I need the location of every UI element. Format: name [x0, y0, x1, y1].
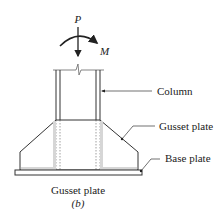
gusset-plate — [20, 120, 138, 170]
column-callout — [101, 90, 152, 93]
base-plate-callout — [140, 159, 160, 172]
caption: Gusset plate — [51, 184, 105, 196]
subfigure-label: (b) — [72, 197, 85, 209]
base-plate-label: Base plate — [165, 152, 211, 164]
base-plate — [15, 170, 142, 175]
moment-label-m: M — [99, 45, 110, 57]
gusset-plate-diagram: P M Column Gusset plat — [0, 0, 221, 209]
column — [53, 64, 104, 170]
load-label-p: P — [74, 13, 82, 25]
gusset-plate-label: Gusset plate — [159, 120, 213, 132]
column-label: Column — [157, 85, 193, 97]
gusset-plate-callout — [121, 126, 155, 140]
